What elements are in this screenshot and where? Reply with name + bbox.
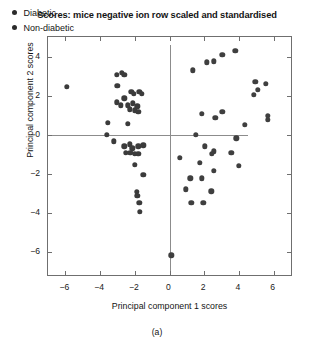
y-axis-tick — [48, 96, 52, 97]
y-axis-tick — [287, 135, 291, 136]
scatter-point — [136, 200, 141, 205]
y-axis-tick — [287, 252, 291, 253]
scatter-point — [122, 96, 127, 101]
x-axis-tick — [100, 37, 101, 41]
scatter-point — [193, 132, 198, 137]
scatter-plot-axes — [47, 36, 292, 276]
y-axis-tick-label: 0 — [14, 129, 40, 139]
x-axis-tick — [170, 271, 171, 275]
y-axis-tick-label: 4 — [14, 51, 40, 61]
x-axis-tick-label: −2 — [129, 282, 139, 292]
scatter-point — [122, 72, 127, 77]
legend-item[interactable]: Diabetic — [10, 6, 74, 19]
legend-item[interactable]: Non-diabetic — [10, 21, 74, 34]
scatter-point — [105, 120, 110, 125]
scatter-point — [204, 60, 209, 65]
x-axis-tick — [135, 37, 136, 41]
x-axis-tick-label: −6 — [59, 282, 69, 292]
x-axis-tick — [204, 271, 205, 275]
scatter-point — [253, 79, 258, 84]
y-axis-tick — [287, 57, 291, 58]
legend-marker-nondiabetic-icon — [12, 25, 17, 30]
scatter-point — [234, 136, 239, 141]
y-axis-tick — [48, 135, 52, 136]
y-axis-tick — [287, 96, 291, 97]
y-axis-label: Principal component 2 scores — [25, 10, 35, 190]
legend-label: Diabetic — [23, 8, 56, 18]
scatter-point — [220, 109, 225, 114]
x-axis-tick — [239, 271, 240, 275]
x-axis-tick-label: 6 — [270, 282, 275, 292]
scatter-point — [197, 160, 202, 165]
scatter-point — [104, 132, 109, 137]
y-axis-tick-label: −4 — [14, 207, 40, 217]
scatter-point — [135, 104, 140, 109]
legend-marker-diabetic-icon — [12, 10, 17, 15]
scatter-point — [211, 59, 216, 64]
x-axis-tick — [65, 271, 66, 275]
scatter-point — [169, 253, 174, 258]
x-axis-tick — [239, 37, 240, 41]
scatter-point — [125, 121, 130, 126]
y-axis-tick-label: −2 — [14, 168, 40, 178]
scatter-point — [136, 151, 141, 156]
y-axis-tick-label: −6 — [14, 246, 40, 256]
scatter-point — [64, 84, 69, 89]
scatter-point — [211, 168, 216, 173]
scatter-point — [118, 103, 123, 108]
y-axis-tick — [48, 174, 52, 175]
scatter-point — [236, 163, 241, 168]
scatter-point — [190, 67, 195, 72]
scatter-point — [233, 48, 238, 53]
x-axis-tick — [204, 37, 205, 41]
x-axis-tick-label: 4 — [236, 282, 241, 292]
scatter-point — [263, 81, 268, 86]
scatter-point — [132, 162, 137, 167]
scatter-point — [139, 91, 144, 96]
scatter-point — [220, 52, 225, 57]
scatter-point — [199, 111, 204, 116]
x-axis-tick-label: −4 — [94, 282, 104, 292]
scatter-point — [201, 200, 206, 205]
y-axis-tick — [48, 252, 52, 253]
scatter-point — [141, 172, 146, 177]
x-axis-tick — [274, 271, 275, 275]
y-axis-tick — [48, 57, 52, 58]
y-axis-tick — [48, 213, 52, 214]
scatter-point — [115, 83, 120, 88]
figure-container: Scores: mice negative ion row scaled and… — [0, 0, 314, 358]
legend: Diabetic Non-diabetic — [10, 6, 74, 34]
scatter-point — [202, 144, 207, 149]
x-axis-tick-label: 2 — [201, 282, 206, 292]
scatter-point — [137, 209, 142, 214]
scatter-point — [177, 155, 182, 160]
scatter-point — [135, 193, 140, 198]
scatter-point — [188, 176, 193, 181]
scatter-point — [199, 176, 204, 181]
y-axis-tick — [287, 174, 291, 175]
scatter-point — [255, 87, 260, 92]
legend-label: Non-diabetic — [23, 23, 74, 33]
reference-line-horizontal — [48, 135, 248, 136]
scatter-point — [188, 200, 193, 205]
scatter-point — [213, 115, 218, 120]
scatter-point — [265, 117, 270, 122]
scatter-point — [141, 143, 146, 148]
y-axis-tick-label: 2 — [14, 90, 40, 100]
x-axis-tick-label: 0 — [166, 282, 171, 292]
x-axis-tick — [274, 37, 275, 41]
figure-caption: (a) — [0, 327, 314, 337]
x-axis-label: Principal component 1 scores — [47, 301, 292, 311]
scatter-point — [208, 188, 213, 193]
scatter-point — [183, 186, 188, 191]
x-axis-tick — [100, 271, 101, 275]
scatter-point — [228, 150, 233, 155]
x-axis-tick — [135, 271, 136, 275]
scatter-point — [136, 109, 141, 114]
scatter-point — [251, 92, 256, 97]
reference-line-vertical — [170, 45, 171, 275]
scatter-point — [111, 139, 116, 144]
scatter-point — [242, 122, 247, 127]
x-axis-tick — [65, 37, 66, 41]
y-axis-tick — [287, 213, 291, 214]
